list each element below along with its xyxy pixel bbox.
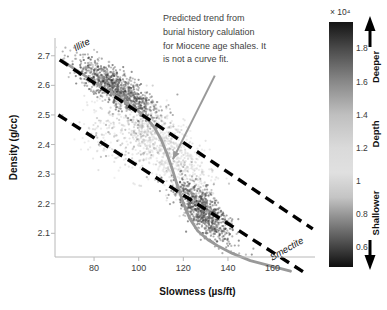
colorbar-tick-label: 1.6	[356, 77, 368, 87]
y-tick-label: 2.3	[28, 169, 50, 179]
colorbar-tick-label: 0.8	[356, 209, 368, 219]
colorbar-exponent: × 10⁴	[330, 7, 350, 17]
annotation-text: Predicted trend from burial history calu…	[163, 12, 303, 67]
deeper-label: Deeper	[370, 51, 381, 83]
colorbar-tick-label: 1.2	[356, 143, 368, 153]
x-tick-label: 80	[79, 263, 109, 273]
x-tick-label: 100	[124, 263, 154, 273]
x-tick-label: 120	[168, 263, 198, 273]
y-axis-label: Density (g/cc)	[8, 108, 19, 188]
x-tick-label: 140	[213, 263, 243, 273]
colorbar-tick-label: 1	[356, 176, 361, 186]
colorbar-tick-label: 0.6	[356, 242, 368, 252]
depth-label: Depth	[370, 121, 381, 148]
colorbar	[329, 22, 353, 267]
colorbar-tick-label: 1.4	[356, 110, 368, 120]
colorbar-tick-label: 1.8	[356, 43, 368, 53]
annotation-arrow	[173, 76, 215, 160]
x-axis-label: Slowness (µs/ft)	[115, 286, 280, 297]
y-tick-label: 2.1	[28, 228, 50, 238]
shallower-label: Shallower	[370, 191, 381, 236]
y-tick-label: 2.4	[28, 140, 50, 150]
x-tick-label: 160	[258, 263, 288, 273]
y-tick-label: 2.6	[28, 80, 50, 90]
y-tick-label: 2.7	[28, 51, 50, 61]
y-tick-label: 2.2	[28, 199, 50, 209]
y-tick-label: 2.5	[28, 110, 50, 120]
figure-root: 2.12.22.32.42.52.62.7 80100120140160 Den…	[0, 0, 387, 310]
scatter-layer	[44, 46, 255, 270]
